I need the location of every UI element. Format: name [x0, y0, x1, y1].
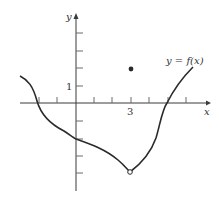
curve-label: y = f(x): [165, 55, 204, 66]
function-graph: y x 3 1 y = f(x): [0, 0, 219, 203]
x-ticks: [39, 97, 186, 103]
x-tick-label-3: 3: [127, 106, 133, 117]
y-axis-arrow-icon: [74, 13, 79, 19]
open-point: [128, 170, 133, 175]
x-axis-arrow-icon: [206, 101, 211, 106]
function-curve: [20, 67, 193, 172]
y-tick-label-1: 1: [66, 81, 72, 92]
y-axis-label: y: [65, 11, 72, 22]
x-axis-label: x: [204, 106, 210, 117]
filled-point: [129, 67, 134, 72]
